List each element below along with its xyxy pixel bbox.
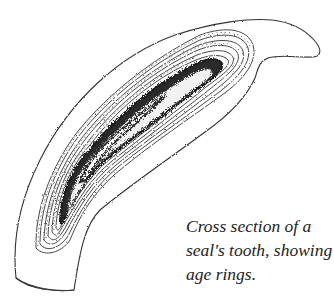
caption-line-1: Cross section of a [186, 214, 334, 238]
figure-caption: Cross section of a seal's tooth, showing… [186, 214, 334, 286]
caption-line-2: seal's tooth, showing [186, 238, 334, 262]
caption-line-3: age rings. [186, 262, 334, 286]
